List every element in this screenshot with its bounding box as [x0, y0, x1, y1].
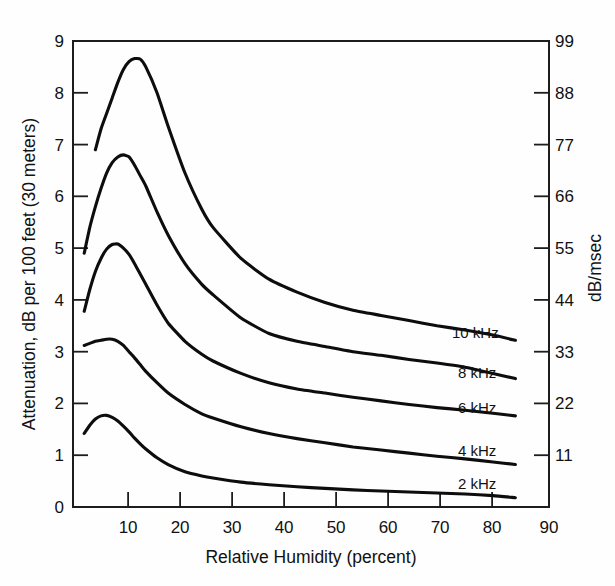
bottom-tick-label-10: 10 [119, 518, 138, 537]
series-label-10khz: 10 kHz [452, 324, 499, 341]
right-tick-label-77: 77 [555, 136, 574, 155]
right-tick-label-66: 66 [555, 187, 574, 206]
y2-axis-title: dB/msec [585, 234, 605, 302]
series-label-4khz: 4 kHz [458, 442, 496, 459]
curve-10khz [95, 58, 515, 340]
right-tick-label-55: 55 [555, 239, 574, 258]
y-axis-title: Attenuation, dB per 100 feet (30 meters) [19, 118, 39, 430]
bottom-tick-label-90: 90 [540, 518, 559, 537]
series-label-6khz: 6 kHz [458, 399, 496, 416]
attenuation-vs-humidity-figure: 9 8 7 6 5 4 3 2 1 0 Attenuation, dB per … [0, 0, 615, 586]
left-tick-label-3: 3 [55, 343, 64, 362]
x-axis-title: Relative Humidity (percent) [205, 547, 416, 567]
right-tick-label-33: 33 [555, 343, 574, 362]
bottom-tick-label-40: 40 [275, 518, 294, 537]
right-axis-tick-labels: 99 88 77 66 55 44 33 22 11 [555, 32, 574, 465]
left-axis-ticks [73, 93, 88, 455]
plot-frame [73, 41, 549, 507]
right-tick-label-99: 99 [555, 32, 574, 51]
right-tick-label-44: 44 [555, 291, 574, 310]
bottom-axis-tick-labels: 10 20 30 40 50 60 70 80 90 [119, 518, 559, 537]
bottom-tick-label-60: 60 [379, 518, 398, 537]
series-label-2khz: 2 kHz [458, 475, 496, 492]
chart-canvas: 9 8 7 6 5 4 3 2 1 0 Attenuation, dB per … [0, 0, 615, 586]
series-labels: 10 kHz 8 kHz 6 kHz 4 kHz 2 kHz [452, 324, 499, 492]
left-tick-label-4: 4 [55, 291, 64, 310]
left-tick-label-2: 2 [55, 394, 64, 413]
curve-6khz [84, 244, 515, 416]
left-tick-label-7: 7 [55, 136, 64, 155]
bottom-tick-label-50: 50 [327, 518, 346, 537]
curve-8khz [84, 155, 515, 379]
left-tick-label-9: 9 [55, 32, 64, 51]
left-axis-tick-labels: 9 8 7 6 5 4 3 2 1 0 [55, 32, 64, 517]
left-tick-label-1: 1 [55, 446, 64, 465]
bottom-tick-label-20: 20 [171, 518, 190, 537]
curve-4khz [84, 339, 515, 464]
left-tick-label-6: 6 [55, 187, 64, 206]
left-tick-label-8: 8 [55, 84, 64, 103]
data-curves [84, 58, 515, 497]
left-tick-label-0: 0 [55, 498, 64, 517]
right-tick-label-22: 22 [555, 394, 574, 413]
right-tick-label-88: 88 [555, 84, 574, 103]
right-tick-label-11: 11 [555, 446, 573, 465]
left-tick-label-5: 5 [55, 239, 64, 258]
bottom-tick-label-70: 70 [431, 518, 450, 537]
right-axis-ticks [534, 41, 549, 455]
bottom-tick-label-80: 80 [483, 518, 502, 537]
series-label-8khz: 8 kHz [458, 364, 496, 381]
bottom-tick-label-30: 30 [223, 518, 242, 537]
